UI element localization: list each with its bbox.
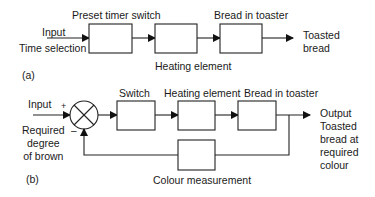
bread-toaster-block-b — [238, 101, 276, 130]
label-time-selection: Time selection — [19, 42, 86, 55]
label-input-b: Input — [28, 98, 51, 111]
panel-label-b: (b) — [26, 173, 39, 186]
label-bread-toaster-a: Bread in toaster — [214, 9, 288, 22]
label-toasted-bread: Toasted bread — [303, 29, 340, 55]
label-switch: Switch — [119, 87, 150, 100]
label-colour-measurement: Colour measurement — [153, 174, 251, 187]
heating-element-block-a — [155, 24, 197, 53]
label-heating-element-b: Heating element — [164, 87, 240, 100]
label-required-degree: Required degree of brown — [22, 124, 65, 163]
label-heating-element-a: Heating element — [155, 60, 231, 73]
label-bread-toaster-b: Bread in toaster — [244, 87, 318, 100]
minus-sign: – — [71, 124, 77, 137]
label-timer-switch: Preset timer switch — [72, 9, 161, 22]
panel-label-a: (a) — [22, 69, 35, 82]
label-input-a: Input — [42, 26, 65, 39]
heating-element-block-b — [178, 101, 215, 130]
colour-measurement-block — [178, 140, 215, 170]
bread-toaster-block-a — [220, 24, 262, 53]
timer-switch-block — [89, 24, 132, 53]
label-output-b: Output Toasted bread at required colour — [320, 107, 359, 172]
switch-block — [117, 101, 155, 130]
feedback-line-left — [84, 129, 178, 155]
plus-sign: + — [61, 100, 66, 113]
